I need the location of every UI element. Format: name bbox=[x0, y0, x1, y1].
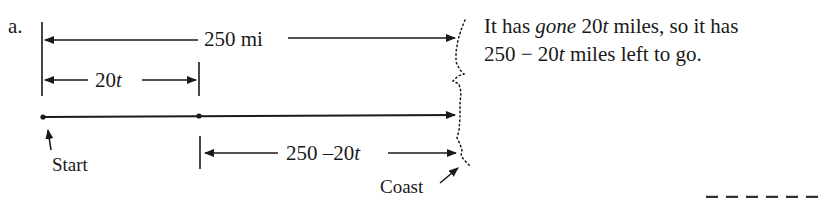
distance-diagram: a. 250 mi 20t 250 –20t Start Coast It ha… bbox=[0, 0, 823, 198]
start-point bbox=[40, 114, 45, 119]
midpoint bbox=[196, 113, 201, 118]
gone-distance-label: 20t bbox=[91, 70, 126, 91]
explanation-text: It has gone 20t miles, so it has 250 − 2… bbox=[484, 12, 738, 68]
explanation-line-2: 250 − 20t miles left to go. bbox=[484, 40, 738, 68]
coast-label: Coast bbox=[376, 177, 427, 196]
start-label: Start bbox=[48, 155, 92, 174]
coastline bbox=[453, 20, 470, 166]
total-distance-label: 250 mi bbox=[200, 29, 267, 50]
explanation-line-1: It has gone 20t miles, so it has bbox=[484, 12, 738, 40]
remaining-distance-label: 250 –20t bbox=[282, 143, 364, 164]
part-label: a. bbox=[8, 14, 23, 39]
